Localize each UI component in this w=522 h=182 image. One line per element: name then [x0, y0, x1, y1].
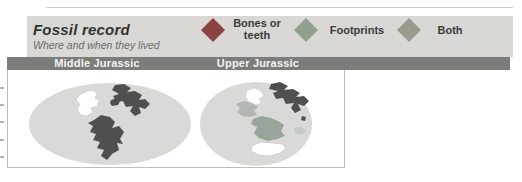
footprints-diamond-icon [292, 16, 320, 44]
figure-subtitle: Where and when they lived [33, 39, 160, 51]
legend-label-both: Both [418, 24, 482, 36]
map-upper-jurassic [198, 80, 316, 168]
edge-dash [0, 87, 4, 89]
legend-label-bones-or-teeth: Bones or teeth [225, 17, 289, 41]
bones-or-teeth-diamond-icon [199, 16, 227, 44]
edge-dash [0, 121, 4, 123]
fossil-record-figure: Fossil record Where and when they lived … [0, 0, 522, 182]
edge-dash [0, 156, 4, 158]
period-label-upper-jurassic: Upper Jurassic [198, 57, 318, 70]
edge-dash [0, 139, 4, 141]
map-middle-jurassic [27, 82, 193, 166]
page-top-rule [46, 7, 513, 8]
edge-dash [0, 104, 4, 106]
period-label-middle-jurassic: Middle Jurassic [7, 57, 187, 70]
figure-title: Fossil record [33, 21, 130, 38]
legend-label-footprints: Footprints [325, 24, 389, 36]
